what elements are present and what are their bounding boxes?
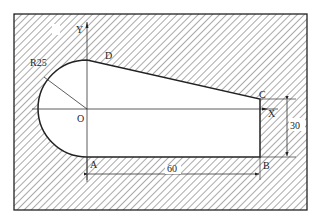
- label-x-axis: X: [268, 108, 276, 119]
- label-point-b: B: [263, 160, 270, 171]
- label-y-axis: Y: [76, 24, 83, 35]
- contour-drawing: Y D R25 O C X 30 A B 60: [0, 0, 322, 223]
- label-point-o: O: [77, 113, 84, 124]
- label-dim-60: 60: [167, 163, 177, 174]
- label-radius: R25: [30, 57, 47, 68]
- label-point-d: D: [105, 50, 112, 61]
- label-point-c: C: [259, 89, 266, 100]
- label-dim-30: 30: [290, 120, 300, 131]
- diagram-canvas: Y D R25 O C X 30 A B 60: [0, 0, 322, 223]
- label-point-a: A: [90, 159, 98, 170]
